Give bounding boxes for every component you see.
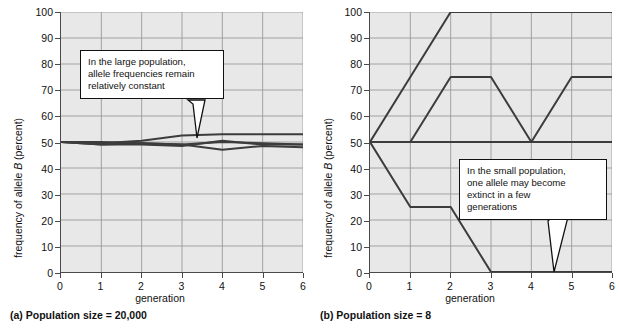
callout-a-line-3: relatively constant (88, 80, 217, 92)
x-tick-label: 1 (400, 281, 420, 292)
callout-b: In the small population, one allele may … (459, 159, 607, 220)
x-tick-label: 6 (602, 281, 620, 292)
x-tick-mark (369, 273, 370, 278)
x-tick-label: 3 (481, 281, 501, 292)
allele-symbol-a: B (12, 163, 24, 170)
callout-b-line-4: generations (467, 201, 600, 213)
x-tick-mark (101, 273, 102, 278)
y-tick-label: 70 (29, 85, 53, 95)
x-tick-label: 1 (91, 281, 111, 292)
x-tick-mark (612, 273, 613, 278)
y-tick-label: 40 (29, 164, 53, 174)
callout-tail-a (185, 98, 225, 143)
y-axis-label-a: frequency of allele B (percent) (12, 118, 24, 258)
x-tick-mark (450, 273, 451, 278)
x-tick-mark (303, 273, 304, 278)
allele-symbol-b: B (322, 163, 334, 170)
y-tick-label: 50 (29, 138, 53, 148)
y-tick-label: 50 (338, 138, 362, 148)
y-tick-label: 60 (338, 111, 362, 121)
panel-b: frequency of allele B (percent) 01020304… (310, 0, 620, 328)
callout-b-line-3: extinct in a few (467, 189, 600, 201)
genetic-drift-figure: frequency of allele B (percent) 01020304… (0, 0, 620, 328)
x-tick-mark (141, 273, 142, 278)
x-tick-label: 5 (253, 281, 273, 292)
y-tick-label: 100 (338, 7, 362, 17)
x-tick-label: 4 (521, 281, 541, 292)
y-tick-label: 90 (338, 33, 362, 43)
callout-tail-b (538, 215, 578, 275)
y-axis-label-b: frequency of allele B (percent) (322, 118, 334, 258)
x-tick-label: 0 (50, 281, 70, 292)
panel-b-caption: (b) Population size = 8 (320, 309, 431, 321)
y-tick-label: 80 (338, 59, 362, 69)
x-axis-label-a: generation (120, 292, 200, 304)
callout-b-line-1: In the small population, (467, 165, 600, 177)
y-tick-label: 70 (338, 85, 362, 95)
x-tick-mark (222, 273, 223, 278)
y-tick-label: 10 (29, 242, 53, 252)
x-tick-mark (263, 273, 264, 278)
panel-a: frequency of allele B (percent) 01020304… (0, 0, 310, 328)
x-tick-label: 4 (212, 281, 232, 292)
x-tick-label: 2 (131, 281, 151, 292)
x-tick-label: 3 (172, 281, 192, 292)
y-tick-label: 60 (29, 111, 53, 121)
y-tick-label: 10 (338, 242, 362, 252)
y-tick-label: 90 (29, 33, 53, 43)
y-tick-label: 0 (338, 268, 362, 278)
x-axis-label-b: generation (430, 292, 510, 304)
x-tick-mark (491, 273, 492, 278)
y-tick-label: 20 (29, 216, 53, 226)
callout-a-line-1: In the large population, (88, 56, 217, 68)
x-tick-label: 0 (359, 281, 379, 292)
y-tick-label: 30 (29, 190, 53, 200)
callout-a-line-2: allele frequencies remain (88, 68, 217, 80)
y-tick-label: 0 (29, 268, 53, 278)
x-tick-mark (531, 273, 532, 278)
x-tick-mark (60, 273, 61, 278)
x-tick-mark (410, 273, 411, 278)
y-tick-label: 40 (338, 164, 362, 174)
x-tick-label: 5 (562, 281, 582, 292)
y-tick-label: 30 (338, 190, 362, 200)
y-tick-label: 20 (338, 216, 362, 226)
callout-a: In the large population, allele frequenc… (80, 50, 224, 99)
y-tick-label: 80 (29, 59, 53, 69)
x-tick-mark (182, 273, 183, 278)
callout-b-line-2: one allele may become (467, 177, 600, 189)
panel-a-caption: (a) Population size = 20,000 (10, 309, 147, 321)
x-tick-label: 2 (440, 281, 460, 292)
y-tick-label: 100 (29, 7, 53, 17)
